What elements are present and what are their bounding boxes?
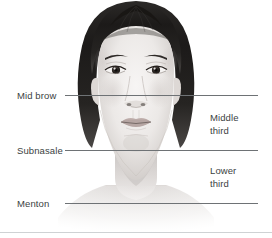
portrait-photo <box>58 0 214 233</box>
label-lower-third: Lower third <box>210 164 236 190</box>
mid-brow-line <box>65 95 258 96</box>
label-lower-third-line2: third <box>210 177 236 190</box>
label-mid-brow: Mid brow <box>17 90 56 101</box>
label-menton: Menton <box>17 198 49 209</box>
bottom-divider <box>0 232 272 233</box>
label-middle-third-line2: third <box>210 124 239 137</box>
label-lower-third-line1: Lower <box>210 165 236 176</box>
label-middle-third: Middle third <box>210 111 239 137</box>
label-middle-third-line1: Middle <box>210 112 239 123</box>
label-subnasale: Subnasale <box>17 145 63 156</box>
facial-thirds-figure: Mid brow Subnasale Menton Middle third L… <box>0 0 272 238</box>
menton-line <box>65 203 258 204</box>
subnasale-line <box>65 150 258 151</box>
